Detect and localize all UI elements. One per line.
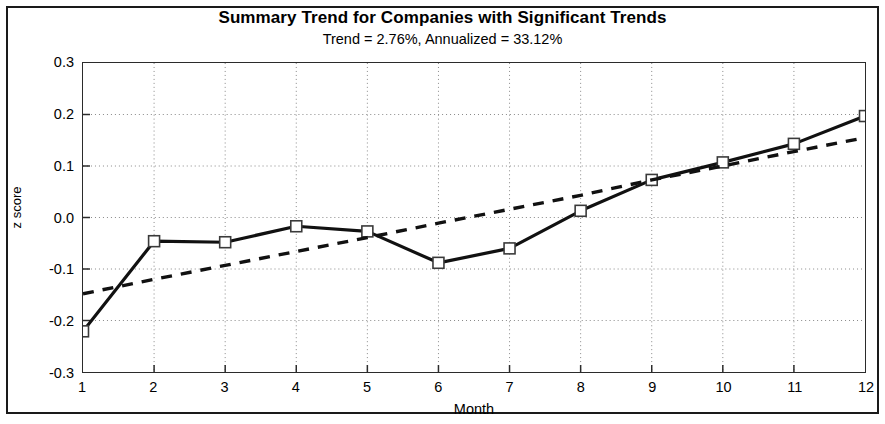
x-axis-tick-label: 3 — [220, 379, 228, 395]
data-point-marker — [362, 226, 373, 237]
chart-subtitle: Trend = 2.76%, Annualized = 33.12% — [0, 31, 885, 47]
x-axis-tick-labels: 123456789101112 — [82, 379, 866, 399]
chart-figure: Summary Trend for Companies with Signifi… — [0, 0, 885, 424]
x-axis-tick-label: 2 — [149, 379, 157, 395]
y-axis-tick-labels: 0.30.20.10.0-0.1-0.2-0.3 — [10, 62, 74, 373]
x-axis-tick-label: 9 — [648, 379, 656, 395]
x-axis-tick-label: 5 — [363, 379, 371, 395]
y-axis-tick-label: 0.2 — [54, 106, 74, 122]
series-line — [83, 116, 865, 331]
y-axis-tick-label: 0.1 — [54, 158, 74, 174]
data-point-marker — [291, 221, 302, 232]
y-axis-tick-label: -0.3 — [49, 365, 74, 381]
x-axis-tick-label: 6 — [434, 379, 442, 395]
x-axis-tick-label: 4 — [292, 379, 300, 395]
y-axis-tick-label: -0.1 — [49, 261, 74, 277]
series-line — [83, 138, 865, 294]
plot-area — [82, 62, 866, 373]
chart-title: Summary Trend for Companies with Signifi… — [0, 8, 885, 28]
data-point-marker — [83, 326, 88, 337]
y-axis-tick-label: 0.0 — [54, 210, 74, 226]
y-axis-tick-label: -0.2 — [49, 313, 74, 329]
data-point-marker — [788, 138, 799, 149]
x-axis-tick-label: 8 — [577, 379, 585, 395]
data-point-marker — [433, 257, 444, 268]
data-point-marker — [504, 243, 515, 254]
x-axis-tick-label: 12 — [858, 379, 874, 395]
x-axis-tick-label: 7 — [506, 379, 514, 395]
x-axis-title: Month — [82, 401, 866, 417]
data-point-marker — [860, 111, 865, 122]
x-axis-tick-label: 11 — [787, 379, 802, 395]
y-axis-tick-label: 0.3 — [54, 54, 74, 70]
data-point-marker — [220, 237, 231, 248]
data-series-layer — [83, 63, 865, 372]
data-point-marker — [149, 236, 160, 247]
x-axis-tick-label: 1 — [78, 379, 86, 395]
data-point-marker — [575, 205, 586, 216]
x-axis-tick-label: 10 — [715, 379, 731, 395]
